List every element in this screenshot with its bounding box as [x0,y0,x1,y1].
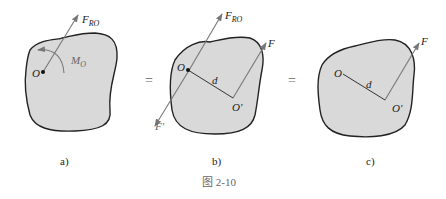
rigid-body-a [25,33,117,131]
point-O-b [186,68,190,72]
figure-caption: 图 2-10 [202,176,236,188]
equals-sign: = [288,73,296,88]
label-F-prime: F′ [154,120,165,132]
panel-label-a: a) [60,155,69,168]
panel-a: O FRO MO a) [25,13,117,168]
equivalent-force-diagram: O FRO MO a) = O d O′ FRO F F′ b) = O d O… [0,0,446,199]
label-O: O [32,67,40,79]
panel-c: O d O′ F c) [318,35,428,168]
point-O-a [41,70,45,74]
label-O-c: O [334,67,342,79]
panel-label-c: c) [366,155,375,168]
label-O-prime-c: O′ [392,102,403,114]
equals-sign: = [145,73,153,88]
label-F-b: F [267,37,275,49]
label-F-c: F [420,35,428,47]
label-d-c: d [366,78,372,90]
label-O-prime-b: O′ [232,101,243,113]
label-F-RO-b: FRO [224,9,243,24]
label-d-b: d [212,74,218,86]
panel-b: O d O′ FRO F F′ b) [154,9,275,168]
panel-label-b: b) [212,155,222,168]
label-F-RO: FRO [81,13,100,28]
label-O-b: O [177,61,185,73]
